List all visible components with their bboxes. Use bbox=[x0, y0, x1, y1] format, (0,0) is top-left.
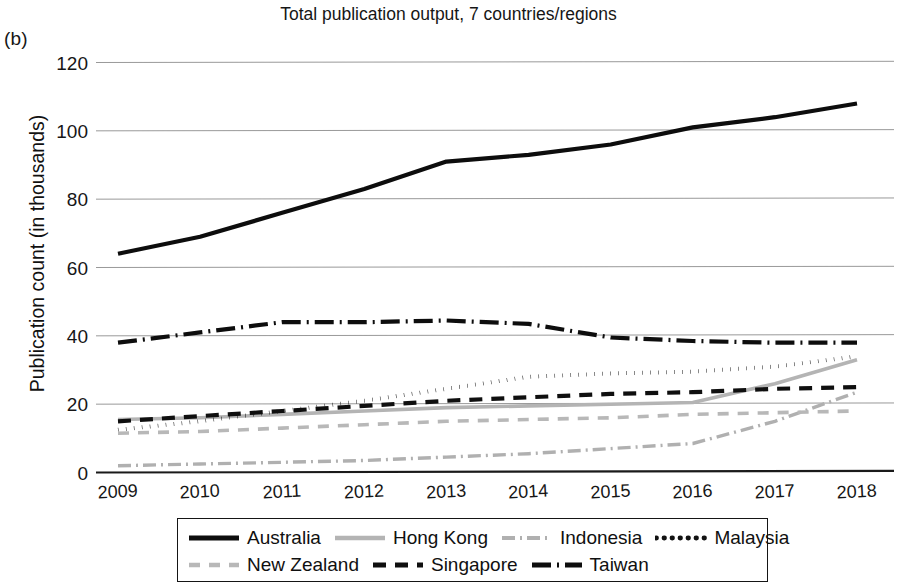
legend-swatch-hong-kong bbox=[334, 531, 386, 545]
x-tick-label: 2011 bbox=[262, 481, 302, 500]
gridline bbox=[96, 130, 894, 131]
x-tick-label: 2017 bbox=[754, 480, 795, 500]
line-chart-plot: 020406080100120 200920102011201220132014… bbox=[0, 0, 897, 500]
legend-entry-malaysia[interactable]: Malaysia bbox=[655, 528, 789, 547]
legend-swatch-malaysia bbox=[655, 531, 707, 545]
legend-label: Taiwan bbox=[590, 555, 649, 574]
gridline bbox=[96, 403, 894, 404]
legend-swatch bbox=[372, 558, 424, 572]
legend-entry-new-zealand[interactable]: New Zealand bbox=[188, 555, 359, 574]
legend-swatch bbox=[501, 531, 553, 545]
series-lines bbox=[118, 104, 857, 466]
x-tick-label: 2018 bbox=[836, 480, 877, 500]
legend-label: Singapore bbox=[431, 555, 518, 574]
gridline bbox=[96, 335, 894, 336]
y-tick-label: 0 bbox=[77, 463, 88, 484]
y-axis-tick-labels: 020406080100120 bbox=[56, 53, 88, 484]
y-axis-title: Publication count (in thousands) bbox=[26, 54, 49, 454]
legend-label: Australia bbox=[247, 528, 321, 547]
legend-swatch-new-zealand bbox=[188, 558, 240, 572]
y-tick-label: 60 bbox=[67, 258, 88, 279]
chart-figure: Total publication output, 7 countries/re… bbox=[0, 0, 897, 584]
x-axis-tick-labels: 2009201020112012201320142015201620172018 bbox=[97, 480, 877, 500]
x-axis-line bbox=[96, 471, 894, 473]
legend-swatch bbox=[531, 558, 583, 572]
chart-legend: AustraliaHong KongIndonesiaMalaysia New … bbox=[177, 518, 768, 582]
x-tick-label: 2010 bbox=[179, 480, 220, 500]
chart-title: Total publication output, 7 countries/re… bbox=[0, 4, 897, 25]
legend-swatch bbox=[188, 558, 240, 572]
gridline bbox=[96, 198, 894, 199]
legend-row: New ZealandSingaporeTaiwan bbox=[188, 551, 759, 578]
legend-entry-indonesia[interactable]: Indonesia bbox=[501, 528, 642, 547]
y-tick-label: 100 bbox=[56, 121, 88, 142]
legend-swatch-singapore bbox=[372, 558, 424, 572]
legend-entry-taiwan[interactable]: Taiwan bbox=[531, 555, 649, 574]
x-axis-baseline bbox=[96, 471, 894, 473]
legend-swatch bbox=[334, 531, 386, 545]
panel-label: (b) bbox=[4, 28, 28, 50]
legend-label: Malaysia bbox=[714, 528, 789, 547]
y-tick-label: 120 bbox=[56, 53, 88, 74]
y-tick-label: 40 bbox=[67, 326, 88, 347]
x-tick-label: 2015 bbox=[590, 480, 631, 500]
legend-swatch bbox=[655, 531, 707, 545]
legend-swatch-indonesia bbox=[501, 531, 553, 545]
legend-label: Hong Kong bbox=[393, 528, 488, 547]
x-tick-label: 2014 bbox=[508, 480, 549, 500]
legend-swatch-australia bbox=[188, 531, 240, 545]
series-line-hong-kong bbox=[118, 360, 857, 420]
x-tick-label: 2012 bbox=[343, 480, 384, 500]
gridline bbox=[96, 266, 894, 267]
legend-swatch-taiwan bbox=[531, 558, 583, 572]
y-tick-label: 20 bbox=[67, 394, 88, 415]
legend-swatch bbox=[188, 531, 240, 545]
series-line-taiwan bbox=[118, 321, 857, 343]
legend-label: Indonesia bbox=[560, 528, 642, 547]
legend-entry-hong-kong[interactable]: Hong Kong bbox=[334, 528, 488, 547]
legend-entry-australia[interactable]: Australia bbox=[188, 528, 321, 547]
x-tick-label: 2009 bbox=[97, 480, 138, 500]
legend-entry-singapore[interactable]: Singapore bbox=[372, 555, 518, 574]
legend-row: AustraliaHong KongIndonesiaMalaysia bbox=[188, 524, 759, 551]
legend-label: New Zealand bbox=[247, 555, 359, 574]
y-tick-label: 80 bbox=[67, 189, 88, 210]
x-tick-label: 2016 bbox=[672, 480, 713, 500]
series-line-australia bbox=[118, 104, 857, 254]
gridline bbox=[96, 61, 894, 62]
x-tick-label: 2013 bbox=[426, 480, 467, 500]
